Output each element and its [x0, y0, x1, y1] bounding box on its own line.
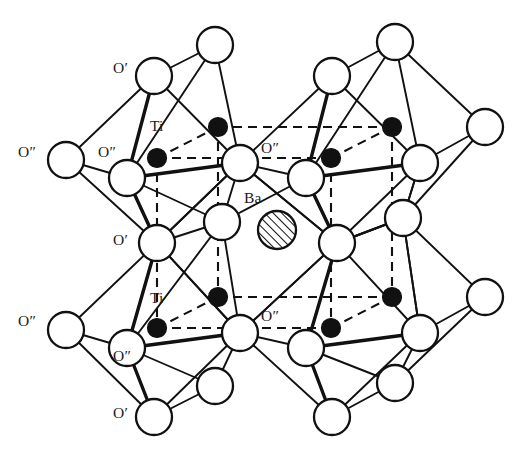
label-o-double-prime-center-lower: O″	[261, 308, 279, 324]
oxygen-atom	[288, 330, 324, 366]
titanium-atom	[383, 288, 402, 307]
label-o-prime-top-left: O′	[113, 60, 128, 76]
titanium-atom	[209, 118, 228, 137]
label-o-prime-left-middle: O′	[113, 232, 128, 248]
oxygen-atom	[204, 204, 240, 240]
oxygen-atom	[402, 315, 438, 351]
label-o-double-prime-left-low: O″	[113, 348, 131, 364]
oxygen-atom	[402, 145, 438, 181]
crystal-lattice-drawing	[0, 0, 520, 454]
oxygen-atom	[319, 225, 355, 261]
oxygen-atom	[48, 312, 84, 348]
oxygen-atom	[467, 279, 503, 315]
oxygen-atom	[467, 109, 503, 145]
oxygen-atom	[222, 145, 258, 181]
titanium-atom	[148, 319, 167, 338]
oxygen-atom	[136, 399, 172, 435]
titanium-atom	[322, 319, 341, 338]
oxygen-atom	[314, 399, 350, 435]
label-o-double-prime-left-inner: O″	[98, 144, 116, 160]
titanium-atom	[322, 149, 341, 168]
label-o-double-prime-far-left-lower: O″	[18, 313, 36, 329]
crystal-structure-figure: O′ O″ O″ Ti O″ Ba O′ Ti O″ O″ O″ O′	[0, 0, 520, 454]
oxygen-atom	[136, 58, 172, 94]
oxygen-atom	[139, 225, 175, 261]
oxygen-atom	[377, 24, 413, 60]
label-ti-lower: Ti	[150, 290, 164, 306]
oxygen-atom	[197, 27, 233, 63]
label-o-prime-bottom-left: O′	[113, 405, 128, 421]
oxygen-atom	[314, 58, 350, 94]
oxygen-atom	[385, 200, 421, 236]
label-o-double-prime-far-left: O″	[18, 144, 36, 160]
label-o-double-prime-center-upper: O″	[261, 140, 279, 156]
barium-atoms	[258, 211, 296, 249]
oxygen-atom	[109, 160, 145, 196]
oxygen-atom	[48, 142, 84, 178]
titanium-atom	[383, 118, 402, 137]
label-ba-center: Ba	[244, 190, 262, 206]
titanium-atom	[209, 288, 228, 307]
label-ti-upper: Ti	[150, 118, 164, 134]
oxygen-atom	[377, 365, 413, 401]
barium-atom	[258, 211, 296, 249]
titanium-atom	[148, 149, 167, 168]
oxygen-atom	[197, 368, 233, 404]
oxygen-atom	[288, 160, 324, 196]
oxygen-atom	[222, 315, 258, 351]
